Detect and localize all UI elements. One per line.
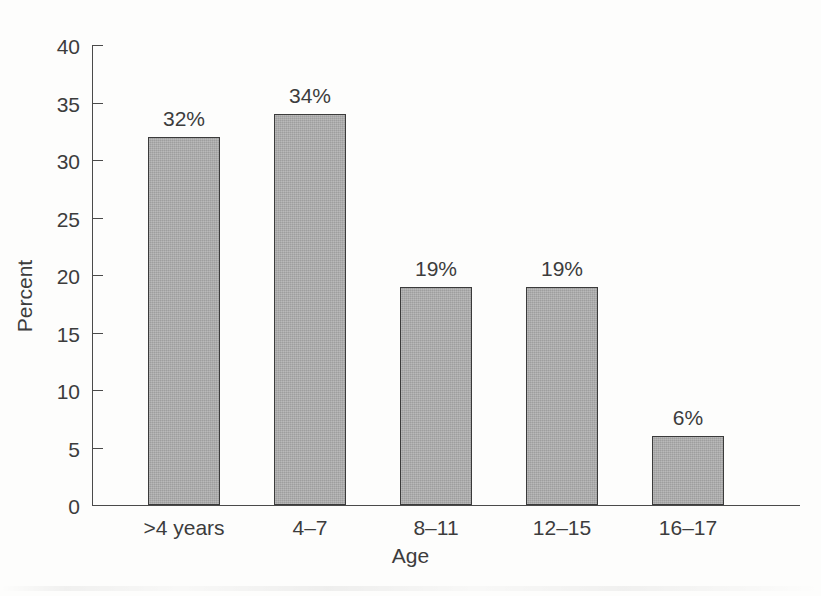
y-axis-tick: 0	[92, 505, 103, 506]
bar-value-label: 34%	[289, 85, 331, 106]
y-axis-tick-label: 40	[57, 36, 80, 57]
y-axis-title: Percent	[14, 260, 35, 332]
y-axis-tick-label: 30	[57, 151, 80, 172]
y-axis-tick: 5	[92, 448, 103, 449]
y-axis-tick: 30	[92, 160, 103, 161]
bar-value-label: 6%	[673, 407, 703, 428]
y-axis-tick-label: 5	[68, 438, 80, 459]
bar: 19%12–15	[526, 287, 598, 506]
y-axis-tick-label: 15	[57, 323, 80, 344]
x-axis-category-label: 16–17	[659, 517, 717, 538]
chart-figure: Percent 0510152025303540 32%>4 years34%4…	[0, 0, 821, 596]
y-axis-tick: 25	[92, 218, 103, 219]
x-axis-category-label: 8–11	[413, 517, 458, 538]
bar: 19%8–11	[400, 287, 472, 506]
y-axis-tick: 15	[92, 333, 103, 334]
y-axis-tick-label: 10	[57, 381, 80, 402]
bar-value-label: 19%	[541, 258, 583, 279]
scan-artifact	[0, 586, 821, 591]
y-axis-tick-label: 25	[57, 208, 80, 229]
x-axis-line	[92, 505, 800, 506]
bar-value-label: 32%	[163, 108, 205, 129]
x-axis-title: Age	[0, 545, 821, 566]
y-axis-tick-label: 35	[57, 93, 80, 114]
x-axis-category-label: 4–7	[292, 517, 327, 538]
bar: 32%>4 years	[148, 137, 220, 505]
x-axis-category-label: 12–15	[533, 517, 591, 538]
y-axis-tick-label: 0	[68, 496, 80, 517]
y-axis-tick: 40	[92, 45, 103, 46]
x-axis-category-label: >4 years	[143, 517, 224, 538]
bar: 34%4–7	[274, 114, 346, 505]
bar: 6%16–17	[652, 436, 724, 505]
bar-value-label: 19%	[415, 258, 457, 279]
y-axis-tick: 35	[92, 103, 103, 104]
plot-area: 0510152025303540 32%>4 years34%4–719%8–1…	[92, 45, 800, 505]
y-axis-tick: 10	[92, 390, 103, 391]
y-axis-tick: 20	[92, 275, 103, 276]
y-axis-tick-label: 20	[57, 266, 80, 287]
